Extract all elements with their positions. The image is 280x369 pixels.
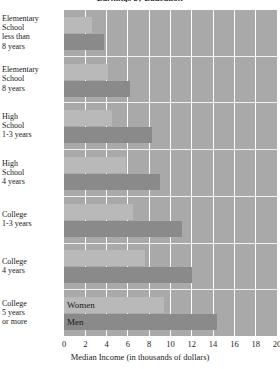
x-tick-2: 2 [83, 339, 87, 349]
category-label-line: Elementary [2, 14, 60, 23]
category-label-line: or more [2, 317, 60, 326]
group-separator [64, 102, 277, 103]
bar-men [64, 127, 152, 143]
category-label-line: 8 years [2, 84, 60, 93]
category-label-line: School [2, 168, 60, 177]
group-separator [64, 243, 277, 244]
x-tick-12: 12 [188, 339, 197, 349]
x-tick-14: 14 [209, 339, 218, 349]
gridline [255, 10, 256, 337]
bar-women [64, 204, 133, 220]
x-tick-10: 10 [166, 339, 175, 349]
category-label-line: less than [2, 32, 60, 41]
category-label-line: College [2, 299, 60, 308]
x-tick-6: 6 [126, 339, 130, 349]
category-label-line: College [2, 257, 60, 266]
category-label-line: School [2, 121, 60, 130]
bar-men [64, 221, 182, 237]
bar-women: Women [64, 297, 164, 313]
bar-women [64, 250, 145, 266]
x-tick-8: 8 [147, 339, 151, 349]
x-tick-20: 20 [273, 339, 280, 349]
x-tick-16: 16 [230, 339, 239, 349]
gridline [234, 10, 235, 337]
category-label-6: College5 yearsor more [2, 299, 60, 327]
legend-label-men: Men [67, 317, 84, 327]
group-separator [64, 149, 277, 150]
group-separator [64, 289, 277, 290]
category-label-2: HighSchool1-3 years [2, 112, 60, 140]
category-label-line: High [2, 112, 60, 121]
category-label-line: 5 years [2, 308, 60, 317]
group-separator [64, 196, 277, 197]
bar-men [64, 34, 104, 50]
chart-title: Earnings by Education [60, 0, 220, 2]
gridline [191, 10, 192, 337]
category-label-5: College4 years [2, 257, 60, 275]
category-label-0: ElementarySchoolless than8 years [2, 14, 60, 51]
category-label-line: School [2, 74, 60, 83]
gridline [277, 10, 278, 337]
bar-men: Men [64, 314, 217, 330]
group-separator [64, 56, 277, 57]
category-label-3: HighSchool4 years [2, 159, 60, 187]
bar-men [64, 174, 160, 190]
x-axis-line [64, 336, 277, 337]
legend-label-women: Women [67, 300, 95, 310]
chart-container: Earnings by Education WomenMen Elementar… [0, 0, 280, 369]
plot-area: WomenMen [64, 10, 277, 337]
category-label-line: 4 years [2, 177, 60, 186]
category-label-line: College [2, 210, 60, 219]
bar-women [64, 110, 112, 126]
category-label-line: 1-3 years [2, 219, 60, 228]
bar-men [64, 81, 130, 97]
x-axis-label: Median Income (in thousands of dollars) [0, 352, 280, 362]
category-label-line: School [2, 23, 60, 32]
category-label-4: College1-3 years [2, 210, 60, 228]
bar-women [64, 64, 108, 80]
category-label-line: 1-3 years [2, 130, 60, 139]
gridline [213, 10, 214, 337]
x-tick-4: 4 [104, 339, 108, 349]
category-label-line: High [2, 159, 60, 168]
category-label-line: Elementary [2, 65, 60, 74]
bar-women [64, 157, 126, 173]
category-label-line: 8 years [2, 42, 60, 51]
bar-women [64, 17, 92, 33]
category-label-line: 4 years [2, 266, 60, 275]
x-tick-0: 0 [62, 339, 66, 349]
gridline [170, 10, 171, 337]
x-tick-18: 18 [251, 339, 260, 349]
category-label-1: ElementarySchool8 years [2, 65, 60, 93]
bar-men [64, 267, 192, 283]
